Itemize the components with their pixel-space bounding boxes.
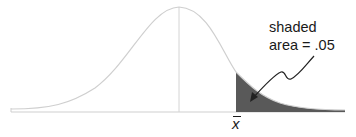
overbar [233, 116, 241, 117]
annotation-line-1: shaded [269, 18, 335, 36]
arrow-line [253, 56, 314, 98]
annotation-line-2: area = .05 [269, 36, 335, 54]
x-bar-symbol: x [232, 115, 240, 132]
annotation-text: shaded area = .05 [269, 18, 335, 54]
x-bar-label: x [232, 115, 240, 133]
